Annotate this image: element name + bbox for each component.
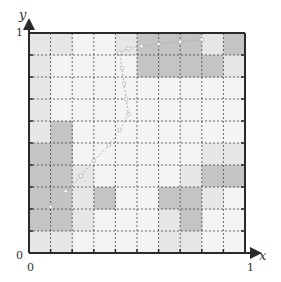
grid-cell bbox=[29, 165, 51, 188]
grid-cell bbox=[94, 187, 116, 210]
trajectory-point bbox=[92, 159, 96, 163]
trajectory-point bbox=[127, 47, 131, 51]
trajectory-point bbox=[64, 190, 68, 194]
grid-cell bbox=[29, 231, 51, 254]
grid-cell bbox=[29, 187, 51, 210]
grid-cell bbox=[72, 165, 94, 188]
grid-cell bbox=[202, 143, 224, 166]
x-axis-max-label: 1 bbox=[247, 262, 254, 273]
grid-cell bbox=[137, 55, 159, 78]
grid-cell bbox=[223, 143, 245, 166]
grid-cell bbox=[223, 33, 245, 56]
grid-cell bbox=[180, 209, 202, 232]
trajectory-point bbox=[127, 113, 131, 117]
grid-cell bbox=[51, 143, 73, 166]
trajectory-point bbox=[122, 82, 126, 86]
grid-cell bbox=[29, 55, 51, 78]
grid-cell bbox=[51, 187, 73, 210]
trajectory-point bbox=[140, 44, 144, 48]
y-axis-max-label: 1 bbox=[16, 27, 23, 38]
grid-cell bbox=[51, 121, 73, 144]
grid-cell bbox=[223, 55, 245, 78]
occupancy-grid-figure: y 1 0 0 1 x bbox=[0, 0, 281, 282]
grid-cell bbox=[72, 187, 94, 210]
trajectory-point bbox=[107, 143, 111, 147]
grid-cell bbox=[202, 165, 224, 188]
grid-cell bbox=[202, 187, 224, 210]
grid-cell bbox=[159, 33, 181, 56]
grid-cell bbox=[180, 165, 202, 188]
x-axis-min-label: 0 bbox=[27, 262, 34, 273]
trajectory-point bbox=[118, 128, 122, 132]
grid-cell bbox=[29, 77, 51, 100]
grid-cell bbox=[180, 231, 202, 254]
grid-cell bbox=[29, 33, 51, 56]
grid-cell bbox=[202, 33, 224, 56]
grid-cell bbox=[51, 231, 73, 254]
grid-cell bbox=[72, 209, 94, 232]
grid-cell bbox=[51, 165, 73, 188]
trajectory-point bbox=[49, 205, 53, 209]
trajectory-point bbox=[178, 40, 182, 44]
grid-cell bbox=[159, 209, 181, 232]
trajectory-point bbox=[79, 174, 83, 178]
y-axis-label: y bbox=[19, 8, 26, 21]
grid-plot bbox=[0, 0, 281, 282]
x-axis-label: x bbox=[259, 249, 266, 262]
trajectory-point bbox=[120, 66, 124, 70]
y-axis-min-label: 0 bbox=[16, 250, 23, 261]
grid-cell bbox=[223, 165, 245, 188]
grid-cell bbox=[202, 55, 224, 78]
trajectory-point bbox=[124, 97, 128, 101]
grid-cell bbox=[159, 187, 181, 210]
trajectory-point bbox=[157, 42, 161, 46]
grid-cell bbox=[180, 55, 202, 78]
grid-cell bbox=[29, 121, 51, 144]
grid-cell bbox=[51, 33, 73, 56]
grid-cell bbox=[159, 55, 181, 78]
grid-cell bbox=[51, 209, 73, 232]
grid-cell bbox=[159, 231, 181, 254]
grid-cell bbox=[180, 187, 202, 210]
grid-cell bbox=[180, 33, 202, 56]
trajectory-point bbox=[118, 51, 122, 55]
grid-cell bbox=[29, 209, 51, 232]
grid-cell bbox=[29, 99, 51, 122]
trajectory-point bbox=[200, 38, 204, 42]
grid-cell bbox=[29, 143, 51, 166]
